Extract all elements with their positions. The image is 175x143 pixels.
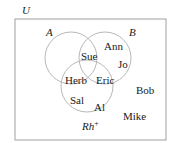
element-herb: Herb — [65, 74, 87, 86]
venn-diagram: U A B Rh+ Sue Ann Jo Herb Eric Sal Al Bo… — [0, 0, 175, 143]
element-sal: Sal — [70, 94, 84, 106]
set-rh-circle — [61, 60, 113, 112]
set-b-label: B — [129, 26, 136, 38]
element-sue: Sue — [81, 50, 98, 62]
element-ann: Ann — [104, 40, 123, 52]
element-bob: Bob — [136, 84, 155, 96]
element-al: Al — [94, 101, 105, 113]
set-a-label: A — [45, 26, 53, 38]
set-rh-label: Rh+ — [81, 119, 99, 132]
element-jo: Jo — [118, 58, 128, 70]
universe-label: U — [22, 4, 31, 16]
element-mike: Mike — [123, 110, 146, 122]
element-eric: Eric — [96, 74, 114, 86]
